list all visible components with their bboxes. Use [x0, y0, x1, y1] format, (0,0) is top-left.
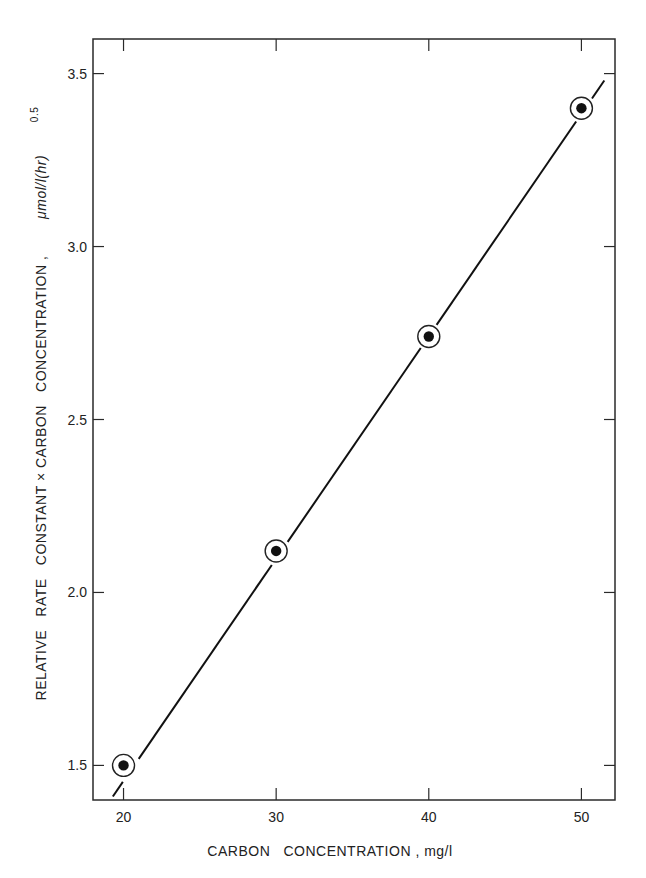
x-axis-ticks: 20304050	[116, 39, 590, 825]
y-tick-label: 1.5	[68, 757, 88, 773]
data-point-dot	[118, 760, 128, 770]
data-point-dot	[424, 331, 434, 341]
y-axis-title-exponent: 0.5	[29, 107, 40, 122]
data-point	[113, 754, 135, 776]
svg-text:RELATIVE RATE CONSTANT × C: RELATIVE RATE CONSTANT × CARBON CONCENTR…	[25, 85, 49, 731]
data-points	[113, 97, 593, 776]
data-point	[570, 97, 592, 119]
fit-line-segment	[592, 81, 604, 99]
fit-line-segment	[113, 782, 123, 797]
y-axis-ticks: 1.52.02.53.03.5	[68, 66, 615, 774]
y-tick-label: 3.0	[68, 239, 88, 255]
y-axis-title-main: RELATIVE RATE CONSTANT × CARBON CONCENTR…	[33, 256, 49, 701]
x-tick-label: 40	[421, 809, 437, 825]
data-point-dot	[271, 546, 281, 556]
y-tick-label: 2.5	[68, 412, 88, 428]
data-point	[418, 325, 440, 347]
plot-border	[93, 39, 615, 800]
fit-line-segment	[437, 122, 577, 325]
data-point-dot	[576, 103, 586, 113]
fit-line-segment	[288, 348, 421, 542]
y-tick-label: 2.0	[68, 584, 88, 600]
fit-line-segment	[139, 565, 272, 759]
plot-frame	[93, 39, 615, 800]
y-axis-title: RELATIVE RATE CONSTANT × CARBON CONCENTR…	[25, 85, 49, 731]
x-tick-label: 20	[116, 809, 132, 825]
fit-line	[113, 81, 604, 797]
x-tick-label: 50	[574, 809, 590, 825]
y-axis-title-unit: μmol/l(hr)	[33, 155, 49, 220]
chart: 20304050 1.52.02.53.03.5 CARBON CONCENTR…	[0, 0, 646, 878]
y-tick-label: 3.5	[68, 66, 88, 82]
x-axis-title: CARBON CONCENTRATION , mg/l	[207, 843, 452, 859]
data-point	[265, 540, 287, 562]
x-tick-label: 30	[268, 809, 284, 825]
